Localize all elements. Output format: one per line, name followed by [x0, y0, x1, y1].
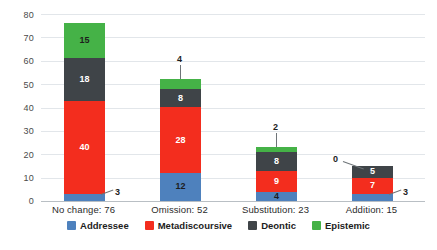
legend-item-deontic[interactable]: Deontic — [248, 220, 296, 231]
legend-item-addressee[interactable]: Addressee — [67, 220, 129, 231]
legend-label: Epistemic — [325, 220, 370, 231]
legend-label: Addressee — [80, 220, 129, 231]
segment-value: 15 — [79, 36, 89, 45]
segment-value: 12 — [175, 182, 185, 191]
legend-swatch-icon — [67, 221, 76, 230]
callout-epistemic-omission: 4 — [177, 54, 182, 64]
x-axis-line — [41, 201, 425, 202]
segment-value: 40 — [79, 143, 89, 152]
y-tick-60: 60 — [8, 56, 34, 66]
y-tick-10: 10 — [8, 173, 34, 183]
legend-item-metadiscoursive[interactable]: Metadiscoursive — [145, 220, 232, 231]
segment-value: 28 — [175, 136, 185, 145]
segment-addressee-addition[interactable] — [352, 194, 393, 201]
segment-value: 4 — [274, 192, 279, 201]
legend-label: Metadiscoursive — [158, 220, 232, 231]
bar-addition[interactable]: 7 5 — [352, 166, 393, 201]
leader-line-omission-epistemic — [180, 65, 181, 79]
segment-addressee-no-change[interactable] — [64, 194, 105, 201]
legend-item-epistemic[interactable]: Epistemic — [312, 220, 370, 231]
gridline-80 — [41, 14, 425, 15]
segment-deontic-no-change[interactable]: 18 — [64, 58, 105, 100]
legend-label: Deontic — [261, 220, 296, 231]
segment-value: 5 — [370, 167, 375, 176]
chart-legend: Addressee Metadiscoursive Deontic Episte… — [0, 220, 437, 231]
plot-area: 40 18 15 3 12 28 8 4 4 9 8 2 7 — [41, 14, 425, 201]
legend-swatch-icon — [312, 221, 321, 230]
segment-metadiscoursive-addition[interactable]: 7 — [352, 178, 393, 194]
stacked-bar-chart: 80 70 60 50 40 30 20 10 0 40 18 15 3 — [0, 0, 437, 250]
segment-deontic-substitution[interactable]: 8 — [256, 152, 297, 171]
segment-metadiscoursive-omission[interactable]: 28 — [160, 107, 201, 172]
callout-epistemic-addition: 0 — [333, 154, 338, 164]
y-tick-40: 40 — [8, 103, 34, 113]
x-label-addition: Addition: 15 — [313, 204, 430, 215]
segment-value: 18 — [79, 75, 89, 84]
callout-epistemic-substitution: 2 — [273, 122, 278, 132]
legend-swatch-icon — [145, 221, 154, 230]
segment-metadiscoursive-no-change[interactable]: 40 — [64, 101, 105, 195]
callout-addressee-addition: 3 — [403, 187, 408, 197]
callout-addressee-no-change: 3 — [115, 187, 120, 197]
segment-addressee-substitution[interactable]: 4 — [256, 192, 297, 201]
y-tick-80: 80 — [8, 10, 34, 20]
leader-line-substitution-epistemic — [276, 133, 277, 147]
segment-addressee-omission[interactable]: 12 — [160, 173, 201, 201]
segment-epistemic-omission[interactable] — [160, 79, 201, 88]
bar-omission[interactable]: 12 28 8 — [160, 79, 201, 201]
segment-value: 8 — [178, 94, 183, 103]
segment-value: 9 — [274, 177, 279, 186]
bar-substitution[interactable]: 4 9 8 — [256, 147, 297, 201]
y-tick-20: 20 — [8, 150, 34, 160]
legend-swatch-icon — [248, 221, 257, 230]
y-tick-70: 70 — [8, 33, 34, 43]
y-tick-30: 30 — [8, 126, 34, 136]
y-tick-50: 50 — [8, 80, 34, 90]
segment-value: 8 — [274, 157, 279, 166]
segment-epistemic-substitution[interactable] — [256, 147, 297, 152]
segment-value: 7 — [370, 181, 375, 190]
bar-no-change[interactable]: 40 18 15 — [64, 23, 105, 201]
segment-epistemic-no-change[interactable]: 15 — [64, 23, 105, 58]
segment-metadiscoursive-substitution[interactable]: 9 — [256, 171, 297, 192]
segment-deontic-omission[interactable]: 8 — [160, 89, 201, 108]
